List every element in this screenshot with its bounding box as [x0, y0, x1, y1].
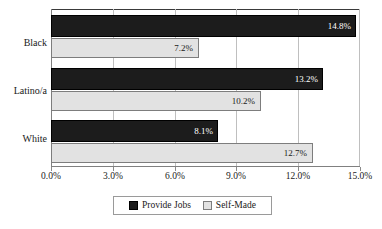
legend-label: Provide Jobs — [142, 201, 191, 211]
bar-white-self-made[interactable]: 12.7% — [51, 143, 313, 163]
bar-value-label: 10.2% — [232, 97, 255, 106]
legend-label: Self-Made — [216, 201, 256, 211]
category-label-latino: Latino/a — [1, 86, 47, 96]
x-tick-label-15: 15.0% — [348, 172, 373, 182]
legend-swatch-icon — [129, 201, 138, 210]
chart-legend: Provide Jobs Self-Made — [113, 196, 272, 215]
legend-item-provide-jobs[interactable]: Provide Jobs — [129, 201, 191, 211]
legend-swatch-icon — [203, 201, 212, 210]
bar-value-label: 14.8% — [328, 22, 351, 31]
x-tick-label-6: 6.0% — [165, 172, 185, 182]
bar-latino-provide-jobs[interactable]: 13.2% — [51, 68, 323, 90]
x-tick-label-12: 12.0% — [286, 172, 311, 182]
x-tick-label-3: 3.0% — [103, 172, 123, 182]
bar-latino-self-made[interactable]: 10.2% — [51, 91, 261, 111]
bar-black-provide-jobs[interactable]: 14.8% — [51, 15, 356, 37]
plot-area: 14.8% 7.2% 13.2% 10.2% 8.1% 12.7% — [51, 9, 360, 166]
bar-value-label: 13.2% — [295, 75, 318, 84]
bar-value-label: 7.2% — [174, 44, 193, 53]
legend-item-self-made[interactable]: Self-Made — [203, 201, 256, 211]
category-label-white: White — [1, 134, 47, 144]
category-axis: Black Latino/a White — [0, 0, 47, 229]
bar-value-label: 8.1% — [194, 127, 213, 136]
x-tick-label-0: 0.0% — [41, 172, 61, 182]
x-tick-label-9: 9.0% — [226, 172, 246, 182]
x-axis-line — [51, 166, 360, 167]
bar-value-label: 12.7% — [284, 149, 307, 158]
bar-white-provide-jobs[interactable]: 8.1% — [51, 120, 218, 142]
bar-black-self-made[interactable]: 7.2% — [51, 38, 199, 58]
gridline-15 — [359, 9, 360, 166]
bar-chart: Black Latino/a White 14.8% 7.2% 13.2% 10… — [0, 0, 382, 229]
category-label-black: Black — [1, 38, 47, 48]
